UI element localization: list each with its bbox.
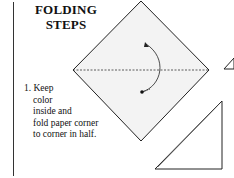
small-triangle-icon: [224, 58, 234, 69]
step-1-text: 1. Keep color inside and fold paper corn…: [24, 83, 98, 141]
start-dot-icon: [140, 90, 144, 94]
step-number: 1.: [24, 83, 31, 93]
